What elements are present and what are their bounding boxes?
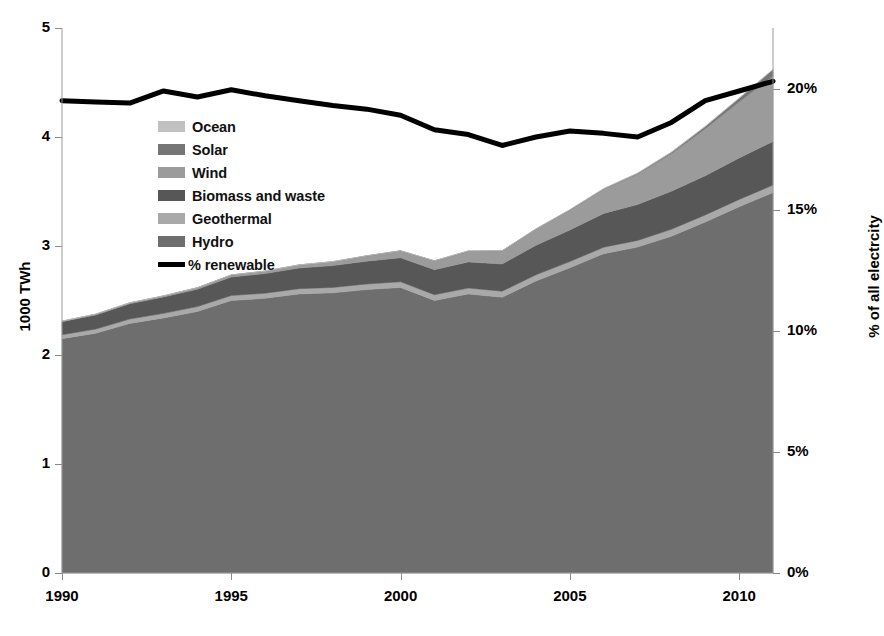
legend-item-ocean: Ocean — [158, 115, 325, 138]
legend-swatch-icon — [158, 167, 185, 178]
legend-item-geothermal: Geothermal — [158, 207, 325, 230]
legend-item-label: Solar — [192, 142, 228, 158]
legend-item-label: % renewable — [188, 257, 275, 273]
legend-swatch-icon — [158, 190, 185, 201]
legend-item-wind: Wind — [158, 161, 325, 184]
plot-area — [0, 0, 884, 636]
legend-item-label: Hydro — [192, 234, 233, 250]
legend-item-label: Biomass and waste — [192, 188, 325, 204]
legend-item-label: Geothermal — [192, 211, 272, 227]
legend-item-biomass-and-waste: Biomass and waste — [158, 184, 325, 207]
legend-swatch-icon — [158, 236, 185, 247]
legend-line-marker-icon — [158, 262, 185, 267]
legend-item-label: Ocean — [192, 119, 236, 135]
legend-swatch-icon — [158, 121, 185, 132]
legend-item-label: Wind — [192, 165, 227, 181]
legend-swatch-icon — [158, 213, 185, 224]
legend-swatch-icon — [158, 144, 185, 155]
legend-item-hydro: Hydro — [158, 230, 325, 253]
legend: OceanSolarWindBiomass and wasteGeotherma… — [158, 115, 325, 276]
renewable-electricity-area-chart: 1000 TWh % of all electrcity 0123450%5%1… — [0, 0, 884, 636]
legend-item--renewable: % renewable — [158, 253, 325, 276]
legend-item-solar: Solar — [158, 138, 325, 161]
